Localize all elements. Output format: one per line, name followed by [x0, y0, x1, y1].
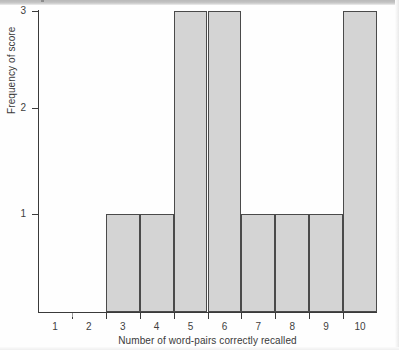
x-axis-tick-label: 6 [212, 321, 236, 332]
x-axis-tick-label: 4 [145, 321, 169, 332]
histogram-bar [343, 11, 377, 312]
y-axis-tick [32, 108, 38, 109]
chart-page: 123 12345678910 Number of word-pairs cor… [0, 0, 399, 350]
x-axis-tick-label: 2 [77, 321, 101, 332]
x-axis-tick-label: 1 [43, 321, 67, 332]
histogram-bar [106, 214, 140, 312]
histogram-bar [140, 214, 174, 312]
y-axis-line [38, 10, 39, 313]
x-axis-tick [241, 313, 242, 319]
x-axis-tick-label: 7 [246, 321, 270, 332]
x-axis-tick-label: 3 [111, 321, 135, 332]
x-axis-tick [174, 313, 175, 319]
x-axis-tick [106, 313, 107, 319]
histogram-bar [275, 214, 309, 312]
x-axis-tick-label: 9 [314, 321, 338, 332]
x-axis-tick-label: 8 [280, 321, 304, 332]
x-axis-tick [208, 313, 209, 319]
y-axis-tick [32, 214, 38, 215]
histogram-bar [174, 11, 208, 312]
x-axis-tick-label: 5 [179, 321, 203, 332]
histogram-bar [241, 214, 275, 312]
x-axis-tick [275, 313, 276, 319]
y-axis-tick [32, 11, 38, 12]
x-axis-title: Number of word-pairs correctly recalled [38, 335, 377, 347]
y-axis-title: Frequency of score [6, 0, 18, 114]
x-axis-tick-label: 10 [348, 321, 372, 332]
histogram-bar [208, 11, 242, 312]
x-axis-tick [309, 313, 310, 319]
x-axis-tick [140, 313, 141, 319]
histogram-bar [309, 214, 343, 312]
y-axis-tick-label: 1 [12, 209, 26, 219]
x-axis-minor-tick [72, 313, 73, 317]
x-axis-tick [343, 313, 344, 319]
histogram-plot-area: 123 12345678910 Number of word-pairs cor… [0, 0, 399, 350]
